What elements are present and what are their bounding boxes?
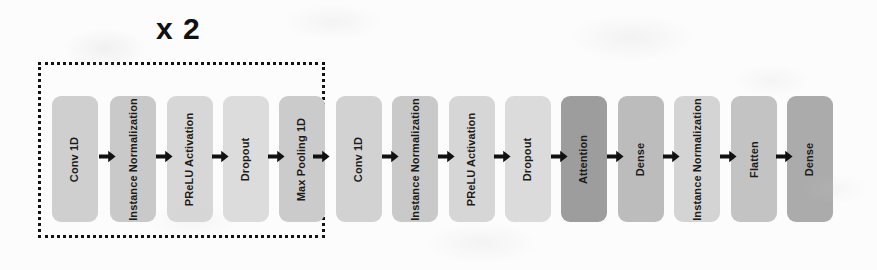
layer-block-label: Dense bbox=[636, 142, 647, 176]
layer-block: Conv 1D bbox=[52, 96, 98, 222]
flow-arrow-icon bbox=[776, 150, 793, 163]
flow-arrow-icon bbox=[663, 150, 680, 163]
layer-block: Dense bbox=[787, 96, 833, 222]
layer-block-label: PReLU Activation bbox=[467, 112, 478, 205]
layer-block: Conv 1D bbox=[336, 96, 382, 222]
flow-arrow-icon bbox=[268, 150, 285, 163]
flow-arrow-icon bbox=[382, 150, 399, 163]
layer-block-label: Instance Normalization bbox=[410, 98, 421, 221]
repeat-count-label: x 2 bbox=[156, 12, 201, 46]
flow-arrow-icon bbox=[607, 150, 624, 163]
layer-block-label: Conv 1D bbox=[69, 136, 80, 181]
layer-block-label: PReLU Activation bbox=[185, 112, 196, 205]
flow-arrow-icon bbox=[313, 150, 330, 163]
flow-arrow-icon bbox=[494, 150, 511, 163]
layer-block-label: Instance Normalization bbox=[128, 98, 139, 221]
layer-block-label: Dropout bbox=[241, 137, 252, 180]
flow-arrow-icon bbox=[212, 150, 229, 163]
architecture-diagram: x 2 Conv 1DInstance NormalizationPReLU A… bbox=[0, 0, 877, 270]
layer-block-label: Dropout bbox=[523, 137, 534, 180]
layer-block: Dense bbox=[618, 96, 664, 222]
flow-arrow-icon bbox=[156, 150, 173, 163]
layer-block-label: Dense bbox=[805, 142, 816, 176]
flow-arrow-icon bbox=[99, 150, 116, 163]
flow-arrow-icon bbox=[551, 150, 568, 163]
layer-block-label: Attention bbox=[579, 134, 590, 183]
flow-arrow-icon bbox=[720, 150, 737, 163]
layer-block: Dropout bbox=[505, 96, 551, 222]
layer-block-label: Flatten bbox=[748, 141, 759, 178]
layer-block: PReLU Activation bbox=[449, 96, 495, 222]
layer-block-label: Instance Normalization bbox=[692, 98, 703, 221]
flow-arrow-icon bbox=[438, 150, 455, 163]
layer-block-label: Max Pooling 1D bbox=[297, 117, 308, 200]
layer-block: PReLU Activation bbox=[167, 96, 213, 222]
layer-block-label: Conv 1D bbox=[353, 136, 364, 181]
layer-block: Flatten bbox=[731, 96, 777, 222]
layer-block: Instance Normalization bbox=[674, 96, 720, 222]
layer-block: Dropout bbox=[223, 96, 269, 222]
layer-block: Instance Normalization bbox=[110, 96, 156, 222]
